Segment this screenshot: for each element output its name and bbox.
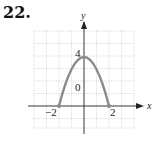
endpoint-left — [57, 104, 61, 108]
y-axis-label: y — [80, 10, 86, 21]
graph: y x 4 0 −2 2 — [0, 0, 159, 141]
tick-label-x-neg2: −2 — [45, 106, 57, 118]
y-axis-arrow-icon — [81, 21, 87, 29]
x-axis-label: x — [146, 100, 152, 111]
tick-label-y-4: 4 — [75, 47, 81, 59]
x-axis-arrow-icon — [136, 103, 144, 109]
tick-label-y-0: 0 — [75, 81, 81, 93]
tick-label-x-2: 2 — [110, 106, 116, 118]
